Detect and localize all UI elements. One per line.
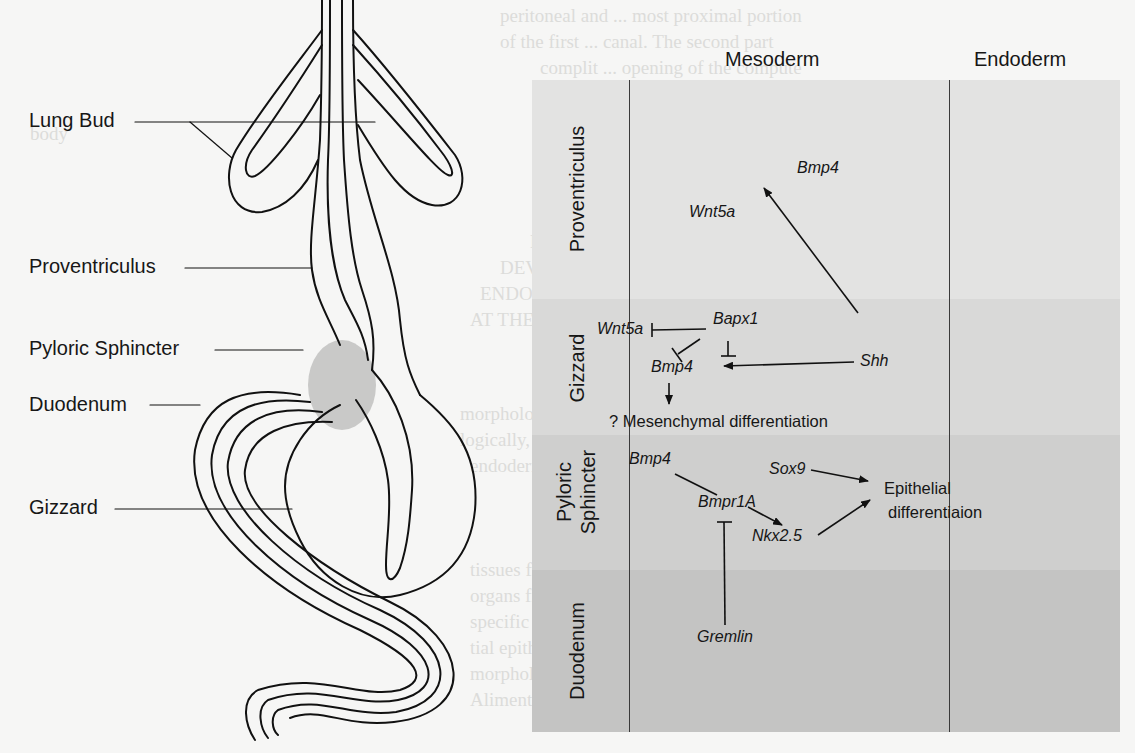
node-epithelial-differentiation: Epithelial differentiaion — [884, 476, 982, 524]
label-duodenum: Duodenum — [29, 393, 127, 416]
node-shh: Shh — [860, 352, 888, 370]
node-sox9: Sox9 — [769, 460, 805, 478]
label-proventriculus: Proventriculus — [29, 255, 156, 278]
node-gremlin: Gremlin — [697, 628, 753, 646]
epithelial-line2: differentiaion — [884, 500, 982, 524]
epithelial-line1: Epithelial — [884, 476, 982, 500]
arrow-shh-to-gizzard-bmp4 — [724, 362, 854, 366]
node-bmpr1a: Bmpr1A — [698, 493, 756, 511]
arrow-nkx25-to-epithelial — [818, 500, 870, 535]
label-lung-bud: Lung Bud — [29, 109, 115, 132]
inhibit-bapx1-bmp4 — [678, 339, 700, 354]
regulation-arrows — [532, 80, 1120, 732]
arrow-shh-to-prov-bmp4 — [764, 188, 858, 313]
inhibit-gremlin-bmpr1a — [724, 522, 725, 625]
node-gizzard-wnt5a: Wnt5a — [597, 320, 643, 338]
node-pyloric-bmp4: Bmp4 — [629, 450, 671, 468]
node-bapx1: Bapx1 — [713, 310, 758, 328]
label-gizzard: Gizzard — [29, 496, 98, 519]
node-mesenchymal-differentiation: ? Mesenchymal differentiation — [609, 410, 828, 432]
label-pyloric-sphincter: Pyloric Sphincter — [29, 337, 179, 360]
arrow-sox9-to-epithelial — [811, 470, 868, 481]
node-nkx25: Nkx2.5 — [752, 527, 802, 545]
inhibit-bapx1-wnt5a — [652, 329, 706, 330]
node-gizzard-bmp4: Bmp4 — [651, 358, 693, 376]
column-header-endoderm: Endoderm — [974, 48, 1066, 71]
column-header-mesoderm: Mesoderm — [725, 48, 819, 71]
gene-regulation-panel: Proventriculus Gizzard Pyloric Sphincter… — [532, 80, 1120, 732]
node-prov-wnt5a: Wnt5a — [689, 203, 735, 221]
gut-anatomy-illustration: Lung Bud Proventriculus Pyloric Sphincte… — [0, 0, 560, 753]
node-prov-bmp4: Bmp4 — [797, 159, 839, 177]
link-bmp4-bmpr1a — [675, 474, 717, 495]
